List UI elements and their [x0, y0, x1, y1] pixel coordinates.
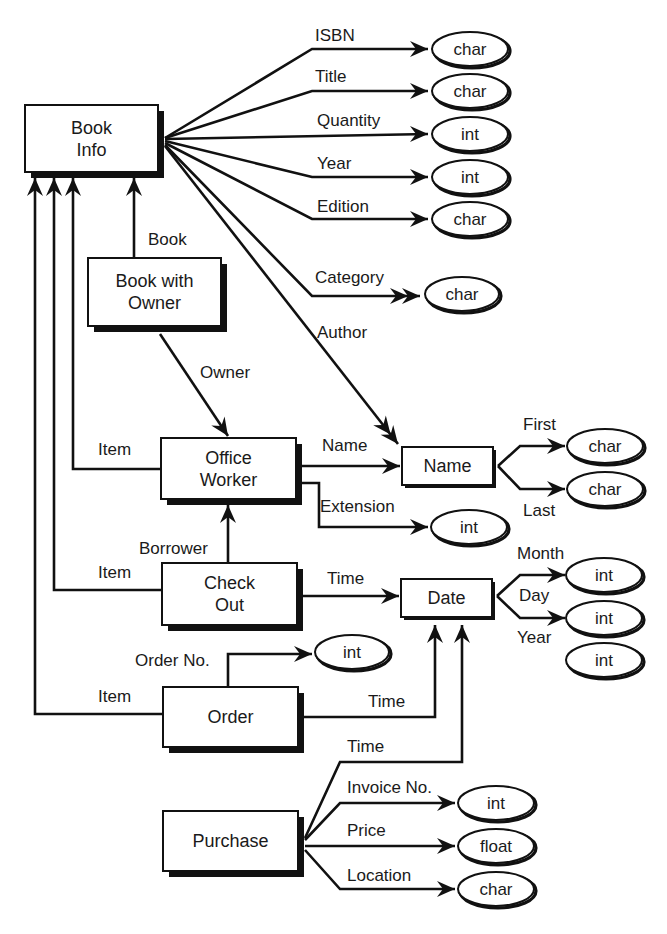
type-order-no-type[interactable]: int — [315, 635, 391, 671]
type-day-type[interactable]: int — [566, 601, 644, 637]
relation-order-no[interactable] — [228, 646, 312, 687]
relation-label-quantity: Quantity — [317, 111, 381, 130]
type-label: int — [595, 609, 613, 628]
entity-date[interactable]: Date — [401, 579, 495, 620]
entity-label: Date — [427, 588, 465, 608]
relation-label-co-time: Time — [327, 569, 364, 588]
relation-first[interactable] — [498, 438, 565, 466]
relation-label-pu-time: Time — [347, 737, 384, 756]
type-location-type[interactable]: char — [458, 872, 536, 908]
relation-label-last: Last — [523, 501, 555, 520]
type-first-type[interactable]: char — [567, 429, 645, 465]
relation-label-invoice-no: Invoice No. — [347, 778, 432, 797]
type-label: char — [453, 82, 486, 101]
entity-label: Book — [71, 118, 113, 138]
type-label: char — [453, 40, 486, 59]
type-label: int — [487, 794, 505, 813]
type-label: char — [445, 285, 478, 304]
relation-label-borrower: Borrower — [139, 539, 208, 558]
type-label: char — [479, 880, 512, 899]
relation-borrower[interactable] — [220, 505, 236, 563]
relation-label-owner: Owner — [200, 363, 250, 382]
relation-last[interactable] — [498, 466, 565, 497]
type-month-type[interactable]: int — [566, 558, 644, 594]
type-label: int — [343, 643, 361, 662]
relation-label-order-no: Order No. — [135, 651, 210, 670]
type-invoice-no-type[interactable]: int — [458, 786, 536, 822]
relation-label-book: Book — [148, 230, 187, 249]
relation-label-month: Month — [517, 544, 564, 563]
relation-label-title: Title — [315, 67, 347, 86]
relation-label-year2: Year — [517, 628, 552, 647]
type-price-type[interactable]: float — [458, 829, 536, 865]
entity-label: Office — [205, 448, 252, 468]
relation-co-time[interactable] — [303, 588, 399, 604]
type-label: int — [595, 566, 613, 585]
relation-label-edition: Edition — [317, 197, 369, 216]
type-edition-type[interactable]: char — [432, 202, 510, 238]
entity-label: Order — [207, 707, 253, 727]
relation-isbn[interactable] — [165, 41, 428, 138]
type-label: int — [595, 651, 613, 670]
relation-title[interactable] — [165, 83, 428, 138]
entity-name[interactable]: Name — [402, 447, 496, 488]
entity-label: Book with — [115, 271, 193, 291]
entity-order[interactable]: Order — [163, 687, 304, 753]
relation-owner[interactable] — [160, 334, 235, 440]
entity-label: Check — [204, 573, 256, 593]
relation-label-year: Year — [317, 154, 352, 173]
relation-book[interactable] — [126, 178, 142, 258]
relation-label-or-time: Time — [368, 692, 405, 711]
relation-label-co-item: Item — [98, 563, 131, 582]
entity-label: Name — [423, 456, 471, 476]
entity-label: Purchase — [192, 831, 268, 851]
type-title-type[interactable]: char — [432, 74, 510, 110]
type-label: char — [588, 437, 621, 456]
entity-book-with-owner[interactable]: Book withOwner — [88, 258, 227, 332]
type-label: int — [460, 518, 478, 537]
type-label: char — [453, 210, 486, 229]
relation-quantity[interactable] — [165, 126, 428, 142]
relation-label-price: Price — [347, 821, 386, 840]
type-last-type[interactable]: char — [567, 472, 645, 508]
type-year-type[interactable]: int — [432, 160, 510, 196]
type-label: int — [461, 168, 479, 187]
relation-ow-name[interactable] — [302, 458, 400, 474]
relation-label-isbn: ISBN — [315, 26, 355, 45]
type-quantity-type[interactable]: int — [432, 117, 510, 153]
relation-label-location: Location — [347, 866, 411, 885]
type-label: int — [461, 125, 479, 144]
entity-label: Info — [76, 140, 106, 160]
relation-label-or-item: Item — [98, 687, 131, 706]
type-label: float — [480, 837, 512, 856]
type-label: char — [588, 480, 621, 499]
entity-label: Out — [215, 595, 244, 615]
relation-label-ow-item: Item — [98, 440, 131, 459]
type-year2-type[interactable]: int — [566, 643, 644, 679]
type-category-type[interactable]: char — [425, 277, 501, 313]
entity-label: Owner — [128, 293, 181, 313]
entity-book-info[interactable]: BookInfo — [25, 105, 164, 178]
entity-label: Worker — [200, 470, 258, 490]
relation-price[interactable] — [305, 838, 455, 854]
type-extension-type[interactable]: int — [431, 510, 509, 546]
relation-label-category: Category — [315, 268, 384, 287]
er-diagram: BookInfoBook withOwnerOfficeWorkerNameCh… — [0, 0, 667, 934]
entity-purchase[interactable]: Purchase — [163, 811, 304, 877]
arrowhead-icon — [211, 417, 234, 441]
relation-label-author: Author — [317, 323, 367, 342]
type-isbn-type[interactable]: char — [432, 32, 510, 68]
relation-label-ow-extension: Extension — [320, 497, 395, 516]
relation-label-ow-name: Name — [322, 436, 367, 455]
relation-co-item[interactable] — [46, 178, 162, 590]
entity-office-worker[interactable]: OfficeWorker — [161, 438, 302, 505]
relation-label-first: First — [523, 415, 556, 434]
entity-check-out[interactable]: CheckOut — [162, 563, 303, 631]
relation-label-day: Day — [519, 586, 550, 605]
